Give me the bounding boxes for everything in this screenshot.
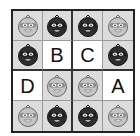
grid-cell-r4-c3[interactable] [73, 101, 103, 131]
grid-cell-r3-c1[interactable]: D [13, 71, 43, 101]
light-ninja-icon [45, 74, 69, 98]
dark-ninja-icon [106, 43, 130, 67]
grid-cell-r1-c2[interactable] [43, 11, 73, 41]
grid-cell-r1-c4[interactable] [103, 11, 133, 41]
light-ninja-icon [16, 14, 40, 38]
cell-letter: A [111, 76, 124, 96]
grid-cell-r1-c1[interactable] [13, 11, 43, 41]
grid-cell-r3-c4[interactable]: A [103, 71, 133, 101]
grid-cell-r3-c3[interactable] [73, 71, 103, 101]
light-ninja-icon [76, 74, 100, 98]
dark-ninja-icon [45, 104, 69, 128]
grid-cell-r1-c3[interactable] [73, 11, 103, 41]
light-ninja-icon [16, 104, 40, 128]
grid-cell-r4-c1[interactable] [13, 101, 43, 131]
grid-cell-r2-c3[interactable]: C [73, 41, 103, 71]
cell-letter: B [50, 45, 63, 65]
puzzle-grid: BC D A [11, 9, 135, 133]
grid-cell-r3-c2[interactable] [43, 71, 73, 101]
light-ninja-icon [106, 14, 130, 38]
dark-ninja-icon [76, 14, 100, 38]
grid-cell-r4-c2[interactable] [43, 101, 73, 131]
dark-ninja-icon [16, 43, 40, 67]
cell-letter: D [20, 76, 34, 96]
light-ninja-icon [106, 104, 130, 128]
grid-cell-r2-c2[interactable]: B [43, 41, 73, 71]
cell-letter: C [80, 45, 94, 65]
dark-ninja-icon [45, 14, 69, 38]
grid-cell-r2-c4[interactable] [103, 41, 133, 71]
grid-cell-r2-c1[interactable] [13, 41, 43, 71]
dark-ninja-icon [76, 104, 100, 128]
grid-cell-r4-c4[interactable] [103, 101, 133, 131]
